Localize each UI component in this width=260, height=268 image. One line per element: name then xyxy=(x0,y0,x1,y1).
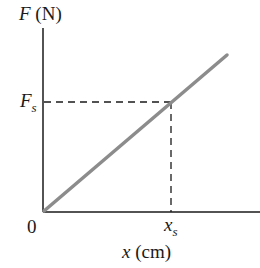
x-unit: (cm) xyxy=(135,241,171,262)
y-var: F xyxy=(19,3,31,24)
xs-sub: s xyxy=(172,224,177,239)
fs-tick-label: Fs xyxy=(20,91,37,110)
xs-tick-label: xs xyxy=(164,215,178,234)
y-axis-label: F (N) xyxy=(19,4,62,23)
y-unit: (N) xyxy=(35,3,61,24)
fs-var: F xyxy=(20,90,32,111)
x-var: x xyxy=(122,241,130,262)
chart-plot-area xyxy=(0,0,260,268)
x-axis-label: x (cm) xyxy=(122,242,171,261)
force-vs-displacement-chart: F (N) Fs 0 xs x (cm) xyxy=(0,0,260,268)
data-line xyxy=(44,55,227,211)
fs-sub: s xyxy=(32,100,37,115)
origin-label: 0 xyxy=(27,217,37,236)
